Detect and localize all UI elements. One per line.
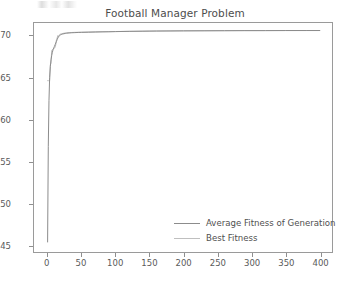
y-tick-label: 55 (0, 157, 11, 167)
x-tick-mark (321, 253, 322, 257)
chart-legend: Average Fitness of GenerationBest Fitnes… (174, 217, 335, 244)
x-tick-mark (252, 253, 253, 257)
y-tick-label: 65 (0, 73, 11, 83)
y-tick-label: 60 (0, 115, 11, 125)
legend-line-icon (174, 238, 200, 239)
legend-label: Best Fitness (206, 234, 258, 243)
x-tick-mark (184, 253, 185, 257)
x-tick-mark (81, 253, 82, 257)
legend-label: Average Fitness of Generation (206, 219, 335, 228)
x-tick-mark (47, 253, 48, 257)
x-tick-mark (286, 253, 287, 257)
legend-item[interactable]: Best Fitness (174, 232, 335, 244)
legend-item[interactable]: Average Fitness of Generation (174, 217, 335, 229)
x-tick-mark (149, 253, 150, 257)
x-tick-label: 400 (299, 258, 343, 268)
legend-line-icon (174, 223, 200, 224)
y-tick-label: 45 (0, 241, 11, 251)
y-tick-label: 70 (0, 30, 11, 40)
series-line (48, 31, 320, 81)
y-tick-label: 50 (0, 199, 11, 209)
chart-title: Football Manager Problem (0, 7, 350, 19)
x-tick-mark (218, 253, 219, 257)
x-tick-mark (115, 253, 116, 257)
chart-figure: Football Manager Problem 455055606570 05… (0, 0, 350, 286)
series-line (48, 31, 320, 242)
